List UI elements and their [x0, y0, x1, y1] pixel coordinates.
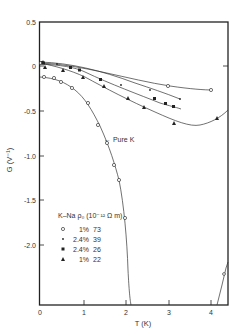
legend-label: 2.4%	[73, 246, 89, 253]
y-tick-label: -2.0	[24, 242, 36, 249]
curve-1pct-22	[40, 63, 228, 125]
curve-pure-k	[40, 77, 131, 305]
x-tick-label: 4	[209, 309, 213, 316]
curve-1pct-73	[40, 63, 212, 90]
x-axis: 0 1 2 3 4 T (K)	[38, 300, 213, 328]
x-tick-label: 1	[82, 309, 86, 316]
x-axis-title: T (K)	[135, 319, 152, 328]
filled-triangle-marker-icon	[61, 257, 65, 261]
legend-label: 2.4%	[73, 236, 89, 243]
markers-filled-triangle	[41, 60, 219, 125]
legend-label: 1%	[79, 226, 89, 233]
y-tick-label: 0.5	[26, 19, 36, 26]
legend-rho: 73	[93, 226, 101, 233]
x-tick-label: 2	[124, 309, 128, 316]
legend-rho: 22	[93, 256, 101, 263]
legend-title: K–Na ρ₀ (10⁻¹² Ω m)	[58, 212, 122, 220]
y-tick-label: 0	[32, 63, 36, 70]
curve-2.4pct-26	[40, 64, 181, 109]
y-axis-title: G (V⁻¹)	[5, 147, 14, 172]
curve-rising-branch	[217, 262, 228, 305]
curves	[40, 62, 228, 305]
legend-label: 1%	[79, 256, 89, 263]
markers-open-circle	[39, 61, 225, 275]
small-dot-marker-icon	[62, 238, 64, 240]
pure-k-annotation: ← Pure K	[104, 136, 135, 143]
legend-rho: 39	[93, 236, 101, 243]
x-tick-label: 3	[167, 309, 171, 316]
filled-square-marker-icon	[62, 248, 65, 251]
open-circle-marker-icon	[61, 227, 64, 230]
y-tick-label: -0.5	[24, 108, 36, 115]
y-tick-label: -1.0	[24, 153, 36, 160]
legend: K–Na ρ₀ (10⁻¹² Ω m) 1% 73 2.4% 39 2.4% 2…	[58, 212, 122, 263]
chart: 0.5 0 -0.5 -1.0 -1.5 -2.0 G (V⁻¹) 0 1 2 …	[0, 0, 240, 329]
x-tick-label: 0	[38, 309, 42, 316]
legend-rho: 26	[93, 246, 101, 253]
y-tick-label: -1.5	[24, 197, 36, 204]
